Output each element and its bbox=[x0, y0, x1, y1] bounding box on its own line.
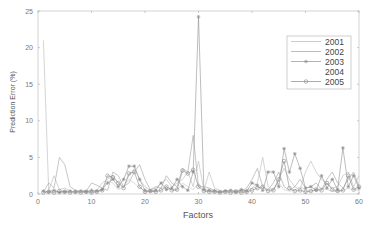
y-tick-label: 20 bbox=[25, 44, 33, 51]
x-axis-label: Factors bbox=[183, 210, 214, 220]
legend: 20012002200320042005 bbox=[287, 36, 351, 89]
y-axis-label: Prediction Error (%) bbox=[9, 71, 17, 132]
x-tick-label: 20 bbox=[141, 198, 149, 205]
x-tick-label: 50 bbox=[302, 198, 310, 205]
legend-label: 2002 bbox=[325, 47, 344, 57]
x-tick-label: 30 bbox=[195, 198, 203, 205]
y-tick-label: 15 bbox=[25, 81, 33, 88]
legend-label: 2005 bbox=[325, 77, 344, 87]
x-tick-label: 10 bbox=[88, 198, 96, 205]
x-tick-label: 60 bbox=[355, 198, 363, 205]
y-tick-label: 0 bbox=[29, 191, 33, 198]
legend-label: 2001 bbox=[325, 37, 344, 47]
legend-label: 2004 bbox=[325, 67, 344, 77]
y-tick-label: 5 bbox=[29, 154, 33, 161]
legend-item-2004: 2004 bbox=[325, 67, 344, 77]
line-chart: 0510152025 0102030405060 Factors Predict… bbox=[0, 0, 373, 227]
legend-label: 2003 bbox=[325, 57, 344, 67]
chart-container: 0510152025 0102030405060 Factors Predict… bbox=[0, 0, 373, 227]
y-tick-label: 25 bbox=[25, 8, 33, 15]
x-tick-label: 0 bbox=[36, 198, 40, 205]
y-tick-label: 10 bbox=[25, 117, 33, 124]
x-tick-label: 40 bbox=[248, 198, 256, 205]
